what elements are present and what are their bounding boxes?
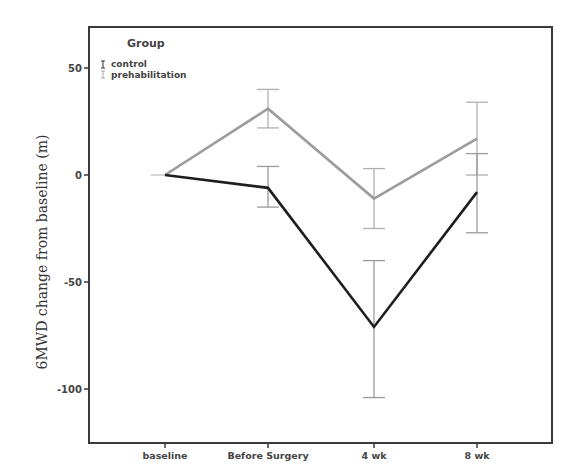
y-axis-title: 6MWD change from baseline (m) xyxy=(34,135,50,370)
errorbars-prehabilitation xyxy=(151,89,488,228)
x-axis-ticks: baselineBefore Surgery4 wk8 wk xyxy=(142,443,490,461)
y-axis-ticks: 500-50-100 xyxy=(57,63,89,395)
line-chart: 6MWD change from baseline (m) 500-50-100… xyxy=(0,0,584,475)
x-tick-label: baseline xyxy=(142,450,187,461)
y-tick-label: 50 xyxy=(68,63,82,74)
legend-item-prehabilitation: prehabilitation xyxy=(101,70,187,80)
x-tick-label: 8 wk xyxy=(464,450,490,461)
x-tick-label: Before Surgery xyxy=(227,450,309,461)
errorbar-icon xyxy=(101,71,105,78)
legend-item-control: control xyxy=(101,59,147,69)
y-tick-label: 0 xyxy=(75,170,82,181)
errorbar-icon xyxy=(101,61,105,68)
series-line-prehabilitation xyxy=(165,109,477,199)
x-tick-label: 4 wk xyxy=(361,450,387,461)
errorbars-control xyxy=(151,154,488,398)
legend: Group control prehabilitation xyxy=(101,37,187,80)
plot-series xyxy=(151,89,488,397)
y-tick-label: -50 xyxy=(64,277,82,288)
legend-title: Group xyxy=(127,37,165,50)
series-line-control xyxy=(165,175,477,327)
legend-label-control: control xyxy=(111,59,147,69)
plot-frame xyxy=(89,27,552,443)
legend-label-prehabilitation: prehabilitation xyxy=(111,70,187,80)
y-tick-label: -100 xyxy=(57,384,82,395)
